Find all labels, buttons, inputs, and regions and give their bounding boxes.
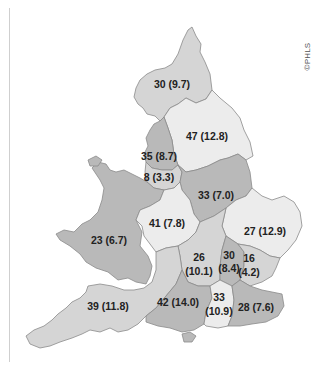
label-mersey: 8 (3.3)	[144, 171, 174, 183]
label-oxford-rate: (10.1)	[185, 265, 212, 277]
england-wales-region-map: 30 (9.7) 47 (12.8) 35 (8.7) 8 (3.3) 33 (…	[0, 0, 323, 367]
label-wales: 23 (6.7)	[91, 234, 127, 246]
label-north-west: 35 (8.7)	[141, 150, 177, 162]
label-se-thames: 28 (7.6)	[238, 301, 274, 313]
label-south-west: 39 (11.8)	[87, 300, 128, 312]
label-sw-thames-rate: (10.9)	[205, 305, 232, 317]
isle-of-wight	[182, 332, 196, 342]
label-west-midlands: 41 (7.8)	[149, 217, 185, 229]
label-oxford-count: 26	[193, 251, 205, 263]
label-northern: 30 (9.7)	[154, 78, 190, 90]
label-yorkshire: 47 (12.8)	[186, 130, 228, 142]
label-east-anglia: 27 (12.9)	[244, 225, 286, 237]
label-ne-thames-count: 16	[243, 252, 255, 264]
label-trent: 33 (7.0)	[198, 189, 234, 201]
label-ne-thames-rate: (4.2)	[238, 266, 260, 278]
label-nw-thames-rate: (8.4)	[218, 262, 240, 274]
label-wessex: 42 (14.0)	[157, 296, 199, 308]
label-nw-thames-count: 30	[223, 249, 235, 261]
label-sw-thames-count: 33	[213, 291, 225, 303]
